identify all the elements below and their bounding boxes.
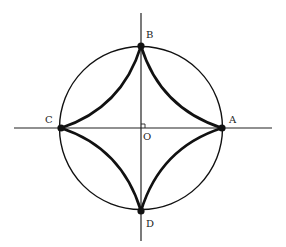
curve-c-b: [61, 46, 141, 128]
label-d: D: [146, 218, 154, 229]
label-c: C: [45, 114, 53, 125]
label-o: O: [143, 131, 151, 142]
point-b-dot: [137, 42, 144, 49]
point-a-dot: [218, 124, 225, 131]
label-b: B: [146, 29, 153, 40]
astroid-in-circle-diagram: A B C D O: [0, 0, 286, 247]
curve-b-a: [141, 46, 222, 128]
point-c-dot: [57, 124, 64, 131]
label-a: A: [228, 114, 237, 125]
point-d-dot: [137, 207, 144, 214]
